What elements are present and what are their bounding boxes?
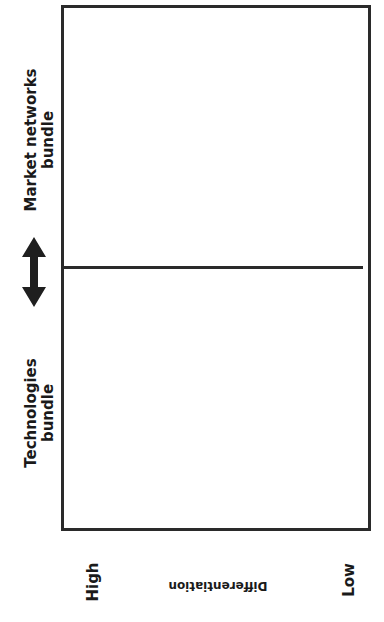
lower-region-label: Technologies bundle (23, 358, 57, 467)
lower-region-label-line2: bundle (40, 358, 57, 467)
double-arrow-icon (22, 237, 46, 307)
upper-region-label-line1: Market networks (23, 68, 40, 211)
axis-title: Differentiation (168, 579, 267, 593)
upper-region-label: Market networks bundle (23, 68, 57, 211)
axis-low-label: Low (340, 563, 358, 597)
axis-high-label: High (84, 562, 102, 601)
region-divider (64, 266, 363, 269)
lower-region-label-line1: Technologies (23, 358, 40, 467)
upper-region-label-line2: bundle (40, 68, 57, 211)
